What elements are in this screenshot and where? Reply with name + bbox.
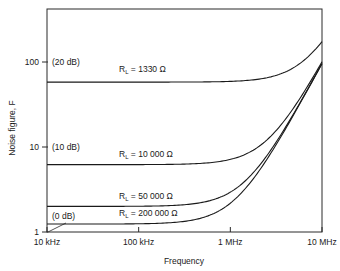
y-axis-ticks: 1(0 dB)10(10 dB)100(20 dB) [25,57,80,237]
series-label: RL = 50 000 Ω [119,191,173,202]
x-axis-ticks: 10 kHz100 kHz1 MHz10 MHz [34,227,337,247]
x-tick-label: 10 kHz [34,237,60,247]
series-labels: RL = 1330 ΩRL = 10 000 ΩRL = 50 000 ΩRL … [119,64,178,219]
y-axis-title: Noise figure, F [7,100,17,155]
db-annotation: (0 dB) [52,211,75,221]
x-tick-label: 1 MHz [218,237,243,247]
series-curve [47,42,322,82]
db-annotation: (20 dB) [52,57,80,67]
x-axis-title: Frequency [164,256,205,266]
series-curves [47,42,322,224]
y-tick-label: 100 [25,57,39,67]
series-label: RL = 1330 Ω [119,64,166,75]
series-curve [47,62,322,165]
db-annotation: (10 dB) [52,142,80,152]
noise-figure-chart: 10 kHz100 kHz1 MHz10 MHz 1(0 dB)10(10 dB… [0,0,340,271]
y-tick-label: 10 [30,142,40,152]
x-tick-label: 100 kHz [123,237,154,247]
y-tick-label: 1 [34,227,39,237]
series-curve [47,64,322,224]
series-curve [47,63,322,206]
series-label: RL = 10 000 Ω [119,149,173,160]
x-tick-label: 10 MHz [307,237,336,247]
plot-frame [47,9,322,232]
series-label: RL = 200 000 Ω [119,208,178,219]
